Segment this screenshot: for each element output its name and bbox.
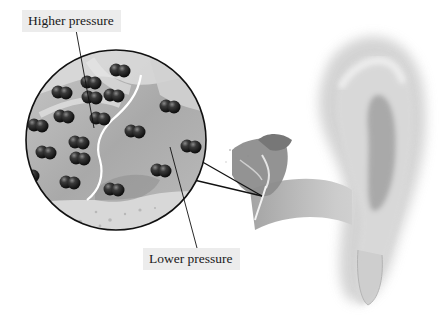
higher-pressure-text: Higher pressure (28, 13, 114, 28)
magnified-view (19, 45, 221, 235)
higher-pressure-label: Higher pressure (22, 10, 121, 32)
ear-illustration (225, 37, 425, 305)
lower-pressure-label: Lower pressure (143, 248, 240, 270)
lower-pressure-text: Lower pressure (149, 251, 233, 266)
ear-pressure-diagram: Higher pressure Lower pressure (0, 0, 444, 327)
diagram-illustration (0, 0, 444, 327)
